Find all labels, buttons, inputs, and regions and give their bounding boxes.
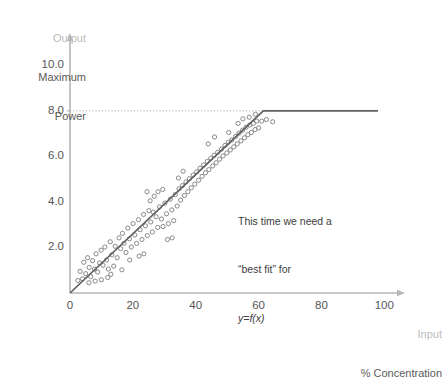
scatter-point xyxy=(156,190,160,194)
scatter-point xyxy=(137,254,141,258)
scatter-point xyxy=(200,174,204,178)
y-axis-tick-label: 6.0 xyxy=(18,149,64,163)
scatter-point xyxy=(117,236,121,240)
scatter-point xyxy=(172,219,176,223)
scatter-point xyxy=(106,267,110,271)
scatter-point xyxy=(140,237,144,241)
scatter-point xyxy=(128,258,132,262)
scatter-point xyxy=(142,252,146,256)
y-axis-caption: Output Maximum Power xyxy=(0,6,86,149)
scatter-point xyxy=(93,279,97,283)
scatter-point xyxy=(235,142,239,146)
y-axis-tick-label: 10.0 xyxy=(18,58,64,72)
annotation-equation: y=f(x) xyxy=(238,310,332,326)
x-axis-tick-label: 100 xyxy=(369,299,399,313)
scatter-point xyxy=(182,193,186,197)
scatter-point xyxy=(82,260,86,264)
scatter-point xyxy=(247,115,251,119)
scatter-point xyxy=(170,236,174,240)
scatter-point xyxy=(212,135,216,139)
scatter-point xyxy=(96,270,100,274)
scatter-point xyxy=(149,220,153,224)
scatter-point xyxy=(87,281,91,285)
scatter-point xyxy=(241,117,245,121)
scatter-point xyxy=(179,198,183,202)
scatter-point xyxy=(84,272,88,276)
y-axis-tick-label: 2.0 xyxy=(18,240,64,254)
scatter-point xyxy=(147,208,151,212)
scatter-point xyxy=(271,120,275,124)
scatter-point xyxy=(166,221,170,225)
scatter-point xyxy=(164,212,168,216)
scatter-point xyxy=(129,245,133,249)
scatter-point xyxy=(131,221,135,225)
scatter-point xyxy=(176,176,180,180)
scatter-point xyxy=(221,154,225,158)
x-axis-tick-label: 20 xyxy=(118,299,148,313)
scatter-point xyxy=(236,121,240,125)
scatter-point xyxy=(175,204,179,208)
scatter-point xyxy=(78,269,82,273)
scatter-point xyxy=(99,278,103,282)
scatter-point xyxy=(189,186,193,190)
scatter-point xyxy=(249,130,253,134)
scatter-point xyxy=(99,248,103,252)
scatter-point xyxy=(108,240,112,244)
scatter-point xyxy=(206,142,210,146)
annotation-line-1: This time we need a xyxy=(238,213,332,229)
scatter-point xyxy=(161,187,165,191)
x-axis-tick-label: 80 xyxy=(306,299,336,313)
scatter-point xyxy=(211,164,215,168)
scatter-point xyxy=(181,169,185,173)
scatter-point xyxy=(87,265,91,269)
scatter-point xyxy=(227,130,231,134)
scatter-point xyxy=(165,237,169,241)
scatter-point xyxy=(86,256,90,260)
scatter-point xyxy=(120,231,124,235)
scatter-point xyxy=(150,230,154,234)
scatter-point xyxy=(186,190,190,194)
scatter-point xyxy=(135,241,139,245)
scatter-point xyxy=(218,157,222,161)
x-axis-caption-label: % Concentration xyxy=(288,367,442,380)
x-axis-tick-label: 0 xyxy=(55,299,85,313)
scatter-point xyxy=(161,224,165,228)
y-axis-tick-label: 4.0 xyxy=(18,195,64,209)
x-axis-tick-label: 40 xyxy=(181,299,211,313)
scatter-point xyxy=(255,119,259,123)
scatter-point xyxy=(145,234,149,238)
scatter-point xyxy=(126,226,130,230)
scatter-point xyxy=(156,225,160,229)
x-axis-arrowhead xyxy=(397,290,405,296)
scatter-point xyxy=(154,215,158,219)
scatter-point xyxy=(159,217,163,221)
scatter-point xyxy=(170,208,174,212)
annotation-line-2: “best fit” for xyxy=(238,261,332,277)
annotation-text: This time we need a “best fit” for y=f(x… xyxy=(238,180,332,359)
scatter-point xyxy=(103,245,107,249)
scatter-point xyxy=(106,275,110,279)
scatter-point xyxy=(94,252,98,256)
y-axis-caption-line1: Maximum xyxy=(0,71,86,84)
x-axis-tick-label: 60 xyxy=(244,299,274,313)
scatter-point xyxy=(115,256,119,260)
scatter-point xyxy=(120,268,124,272)
scatter-point xyxy=(136,218,140,222)
y-axis-caption-prefix: Output xyxy=(0,32,86,45)
scatter-point xyxy=(145,190,149,194)
scatter-point xyxy=(203,171,207,175)
y-axis-tick-label: 8.0 xyxy=(18,104,64,118)
scatter-point xyxy=(228,148,232,152)
scatter-point xyxy=(196,178,200,182)
scatter-point xyxy=(112,264,116,268)
scatter-point xyxy=(76,278,80,282)
scatter-point xyxy=(214,161,218,165)
scatter-point xyxy=(141,212,145,216)
scatter-point xyxy=(264,117,268,121)
scatter-point xyxy=(193,182,197,186)
scatter-point xyxy=(260,119,264,123)
scatter-point xyxy=(124,250,128,254)
scatter-point xyxy=(148,199,152,203)
scatter-point xyxy=(152,194,156,198)
scatter-point xyxy=(239,139,243,143)
